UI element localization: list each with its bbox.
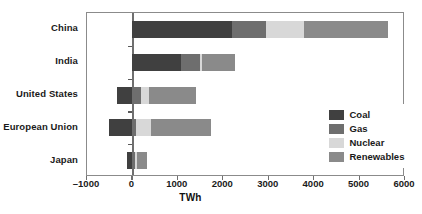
- segment-nuclear: [266, 21, 304, 38]
- legend-swatch-coal-icon: [329, 110, 344, 120]
- segment-coal: [132, 21, 232, 38]
- segment-coal: [132, 54, 181, 71]
- legend-label: Coal: [350, 110, 371, 120]
- bar-united-states: [117, 87, 195, 104]
- segment-renewables: [304, 21, 388, 38]
- bar-european-union: [109, 119, 211, 136]
- segment-renewables: [151, 119, 211, 136]
- x-axis-tick-label: 1000: [151, 178, 203, 190]
- x-axis-tick-labels: –10000100020003000400050006000: [0, 178, 422, 192]
- y-axis-label-china: China: [0, 23, 78, 33]
- y-axis-label-japan: Japan: [0, 155, 78, 165]
- legend-swatch-nuclear-icon: [329, 138, 344, 148]
- stacked-bar-chart: ChinaIndiaUnited StatesEuropean UnionJap…: [0, 0, 422, 214]
- x-axis-tick-label: 5000: [333, 178, 385, 190]
- bar-india: [132, 54, 235, 71]
- legend-item-nuclear: Nuclear: [329, 136, 405, 150]
- x-axis-tick-label: 6000: [378, 178, 422, 190]
- chart-legend: CoalGasNuclearRenewables: [325, 104, 410, 168]
- x-axis-tick-label: 4000: [287, 178, 339, 190]
- x-axis-tick-label: –1000: [60, 178, 112, 190]
- y-axis-label-united-states: United States: [0, 89, 78, 99]
- x-axis-title: TWh: [160, 192, 220, 203]
- legend-label: Renewables: [350, 152, 405, 162]
- segment-gas: [181, 54, 199, 71]
- y-axis-tick: [128, 46, 132, 47]
- y-axis-tick: [128, 79, 132, 80]
- legend-swatch-gas-icon: [329, 124, 344, 134]
- y-axis-tick: [128, 144, 132, 145]
- x-axis-tick-label: 2000: [196, 178, 248, 190]
- legend-item-gas: Gas: [329, 122, 405, 136]
- bar-japan: [127, 152, 147, 169]
- x-axis-tick-label: 0: [105, 178, 157, 190]
- segment-nuclear: [136, 119, 151, 136]
- x-axis-tick-label: 3000: [242, 178, 294, 190]
- legend-label: Gas: [350, 124, 368, 134]
- legend-swatch-renewables-icon: [329, 152, 344, 162]
- legend-label: Nuclear: [350, 138, 385, 148]
- segment-gas: [132, 87, 140, 104]
- segment-gas: [232, 21, 265, 38]
- legend-item-coal: Coal: [329, 108, 405, 122]
- bar-china: [132, 21, 387, 38]
- segment-coal: [117, 87, 132, 104]
- segment-renewables: [149, 87, 195, 104]
- y-axis-tick: [128, 111, 132, 112]
- y-axis-label-india: India: [0, 56, 78, 66]
- y-axis-category-labels: ChinaIndiaUnited StatesEuropean UnionJap…: [0, 0, 82, 176]
- legend-item-renewables: Renewables: [329, 150, 405, 164]
- segment-coal: [109, 119, 132, 136]
- segment-renewables: [137, 152, 147, 169]
- y-axis-label-european-union: European Union: [0, 122, 78, 132]
- segment-nuclear: [141, 87, 150, 104]
- segment-renewables: [202, 54, 235, 71]
